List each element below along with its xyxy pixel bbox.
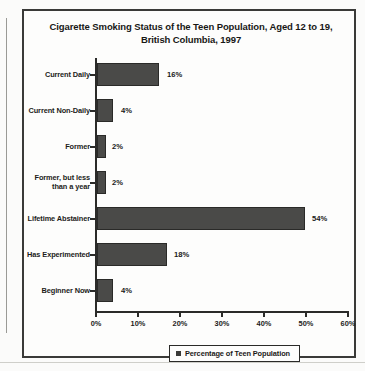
category-label: Current Non-Daily — [24, 106, 90, 115]
bar — [97, 207, 305, 230]
category-label: Former, but less than a year — [24, 173, 90, 191]
chart-title: Cigarette Smoking Status of the Teen Pop… — [34, 20, 348, 46]
scan-edge-left — [6, 18, 7, 333]
bar — [97, 99, 113, 122]
value-axis-tick — [305, 311, 307, 317]
bar-value-label: 54% — [312, 214, 327, 223]
bar-value-label: 2% — [112, 178, 123, 187]
category-label: Lifetime Abstainer — [24, 214, 90, 223]
category-label-text: Current Non-Daily — [28, 106, 90, 115]
chart-title-line-2: British Columbia, 1997 — [34, 33, 348, 46]
scanned-page: Cigarette Smoking Status of the Teen Pop… — [0, 0, 365, 371]
chart-legend: Percentage of Teen Population — [169, 345, 300, 362]
value-axis-tick-label: 20% — [173, 319, 188, 328]
bar-value-label: 18% — [174, 250, 189, 259]
scan-edge-bottom — [0, 362, 365, 363]
bar — [97, 171, 106, 194]
category-tick — [90, 218, 96, 220]
value-axis-tick-label: 30% — [215, 319, 230, 328]
value-axis-tick-label: 50% — [299, 319, 314, 328]
category-label-text: Has Experimented — [27, 250, 90, 259]
bar-row: Current Non-Daily 4% — [24, 94, 358, 130]
category-label: Current Daily — [24, 70, 90, 79]
bar-value-label: 2% — [112, 142, 123, 151]
value-axis-tick — [137, 311, 139, 317]
bar — [97, 279, 113, 302]
bar — [97, 63, 159, 86]
bar-row: Current Daily 16% — [24, 58, 358, 94]
bar — [97, 135, 106, 158]
bar-row: Lifetime Abstainer 54% — [24, 202, 358, 238]
bar-value-label: 4% — [121, 106, 132, 115]
category-label-text: Current Daily — [45, 70, 90, 79]
value-axis-tick-label: 0% — [91, 319, 102, 328]
category-label-text: Former, but less — [35, 173, 91, 182]
value-axis-tick-label: 10% — [131, 319, 146, 328]
category-label: Has Experimented — [24, 250, 90, 259]
category-tick — [90, 290, 96, 292]
category-label-text-line2: than a year — [52, 182, 90, 191]
category-label: Former — [24, 142, 90, 151]
plot-area: Current Daily 16% Current Non-Daily 4% F… — [24, 56, 358, 322]
bar-value-label: 4% — [121, 286, 132, 295]
value-axis-tick — [347, 311, 349, 317]
value-axis-tick — [179, 311, 181, 317]
category-tick — [90, 110, 96, 112]
category-label: Beginner Now — [24, 286, 90, 295]
value-axis-tick — [95, 311, 97, 317]
value-axis-tick — [263, 311, 265, 317]
bar-row: Former, but less than a year 2% — [24, 166, 358, 202]
category-label-text: Former — [65, 142, 90, 151]
bar-row: Former 2% — [24, 130, 358, 166]
value-axis-tick — [221, 311, 223, 317]
category-tick — [90, 74, 96, 76]
bar-row: Beginner Now 4% — [24, 274, 358, 310]
category-label-text: Beginner Now — [42, 286, 91, 295]
chart-title-line-1: Cigarette Smoking Status of the Teen Pop… — [50, 21, 333, 32]
category-tick — [90, 182, 96, 184]
value-axis-tick-label: 40% — [257, 319, 272, 328]
category-tick — [90, 254, 96, 256]
category-tick — [90, 146, 96, 148]
category-label-text: Lifetime Abstainer — [28, 214, 90, 223]
bar-value-label: 16% — [167, 70, 182, 79]
legend-swatch-icon — [176, 351, 181, 356]
value-axis-tick-label: 60% — [341, 319, 356, 328]
bar-row: Has Experimented 18% — [24, 238, 358, 274]
chart-frame: Cigarette Smoking Status of the Teen Pop… — [22, 9, 356, 358]
bar — [97, 243, 167, 266]
legend-entry-label: Percentage of Teen Population — [185, 349, 290, 358]
